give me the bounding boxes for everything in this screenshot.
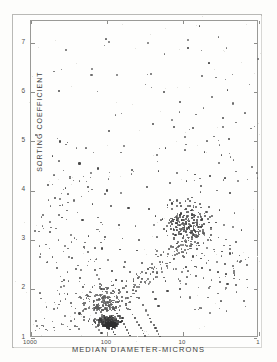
x-tick	[31, 332, 32, 336]
data-point	[40, 253, 41, 254]
data-point	[192, 255, 194, 257]
data-point	[254, 126, 255, 127]
data-point	[188, 220, 190, 222]
data-point	[87, 265, 88, 266]
data-point	[133, 278, 134, 279]
data-point	[154, 327, 156, 329]
data-point	[187, 47, 188, 48]
data-point	[219, 308, 220, 309]
data-point	[76, 147, 77, 148]
data-point	[153, 224, 155, 226]
data-point	[219, 209, 221, 211]
data-point	[243, 300, 245, 302]
data-point	[121, 317, 123, 319]
scan-speckle	[139, 130, 140, 131]
data-point	[186, 240, 187, 241]
data-point	[182, 216, 184, 218]
scan-speckle	[36, 225, 37, 226]
data-point	[178, 245, 180, 247]
data-point	[187, 205, 189, 207]
data-point	[108, 178, 109, 179]
data-point	[57, 307, 58, 308]
data-point	[58, 214, 60, 216]
data-point	[232, 265, 234, 267]
scan-speckle	[153, 155, 154, 156]
data-point	[235, 241, 237, 243]
data-point	[87, 186, 89, 188]
data-point	[44, 318, 45, 319]
scan-speckle	[72, 177, 73, 178]
data-point	[141, 278, 142, 279]
scan-speckle	[199, 328, 200, 329]
data-point	[189, 129, 190, 130]
data-point	[129, 271, 131, 273]
data-point	[87, 251, 89, 253]
data-point	[203, 223, 205, 225]
data-point	[70, 302, 72, 304]
data-point	[102, 224, 103, 225]
data-point	[218, 36, 220, 38]
data-point	[176, 253, 178, 255]
scan-speckle	[55, 304, 56, 305]
data-point	[74, 312, 76, 314]
data-point	[65, 298, 66, 299]
data-point	[88, 307, 90, 309]
scan-speckle	[120, 176, 121, 177]
data-point	[127, 207, 129, 209]
data-point	[226, 310, 227, 311]
data-point	[190, 245, 191, 246]
figure-plate: SORTING COEFFICIENT MEDIAN DIAMETER-MICR…	[0, 0, 277, 362]
data-point	[234, 212, 236, 214]
data-point	[210, 240, 211, 241]
data-point	[86, 181, 88, 183]
data-point	[200, 227, 201, 228]
data-point	[105, 38, 106, 39]
scan-speckle	[106, 296, 107, 297]
data-point	[209, 312, 211, 314]
data-point	[119, 293, 120, 294]
data-point	[114, 334, 116, 336]
data-point	[179, 288, 181, 290]
data-point	[84, 302, 86, 304]
data-point	[67, 326, 68, 327]
data-point	[183, 256, 185, 258]
data-point	[164, 53, 165, 54]
scan-speckle	[71, 184, 72, 185]
data-point	[64, 315, 66, 317]
data-point	[178, 252, 180, 254]
data-point	[125, 285, 127, 287]
data-point	[100, 311, 102, 313]
data-point	[199, 230, 201, 232]
data-point	[189, 200, 191, 202]
data-point	[142, 304, 144, 306]
scan-speckle	[149, 284, 150, 285]
data-point	[171, 202, 173, 204]
data-point	[56, 262, 58, 264]
scan-speckle	[259, 261, 260, 262]
data-point	[53, 327, 54, 328]
data-point	[65, 49, 67, 51]
data-point	[136, 297, 137, 298]
data-point	[225, 273, 227, 275]
scan-speckle	[179, 49, 180, 50]
data-point	[126, 291, 127, 292]
data-point	[91, 189, 92, 190]
data-point	[185, 144, 187, 146]
data-point	[53, 308, 55, 310]
data-point	[63, 170, 64, 171]
data-point	[120, 152, 121, 153]
data-point	[219, 144, 221, 146]
data-point	[119, 300, 121, 302]
data-point	[106, 189, 108, 191]
data-point	[108, 325, 110, 327]
data-point	[115, 114, 116, 115]
data-point	[49, 231, 51, 233]
data-point	[150, 321, 152, 323]
data-point	[87, 295, 89, 297]
data-point	[232, 226, 234, 228]
data-point	[108, 304, 109, 305]
data-point	[125, 326, 127, 328]
data-point	[98, 278, 100, 280]
scan-speckle	[125, 299, 126, 300]
data-point	[90, 74, 92, 76]
